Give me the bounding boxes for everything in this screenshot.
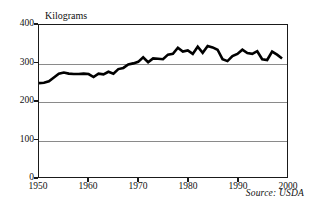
plot-area: [38, 24, 288, 178]
x-tick-mark-1960: [87, 178, 89, 182]
line-path: [39, 46, 282, 83]
y-tick-label-300: 300: [4, 58, 34, 68]
series-line-kilograms: [39, 25, 287, 177]
x-tick-label-1950: 1950: [18, 182, 58, 192]
x-tick-mark-1990: [237, 178, 239, 182]
y-axis-unit-label: Kilograms: [45, 11, 87, 21]
y-tick-mark-400: [34, 23, 38, 25]
y-tick-label-200: 200: [4, 96, 34, 106]
y-tick-label-400: 400: [4, 19, 34, 29]
x-tick-mark-1970: [137, 178, 139, 182]
x-tick-label-1960: 1960: [68, 182, 108, 192]
x-tick-label-1970: 1970: [118, 182, 158, 192]
source-annotation: Source: USDA: [246, 188, 304, 198]
chart-container: Kilograms 0100200300400 1950196019701980…: [0, 0, 310, 204]
x-tick-mark-1980: [187, 178, 189, 182]
y-tick-mark-100: [34, 139, 38, 141]
x-tick-label-1980: 1980: [168, 182, 208, 192]
y-tick-mark-0: [34, 177, 38, 179]
y-tick-label-100: 100: [4, 135, 34, 145]
y-tick-mark-200: [34, 100, 38, 102]
y-tick-mark-300: [34, 62, 38, 64]
